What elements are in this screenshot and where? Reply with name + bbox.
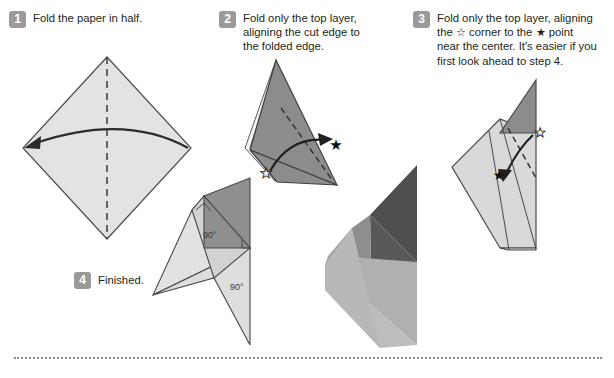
step-4-angle-label-lower: 90° [230, 282, 244, 292]
step-3-paper-tail [500, 248, 536, 250]
step-3-header: 3 Fold only the top layer, aligning the … [413, 11, 613, 68]
step-1-text: Fold the paper in half. [33, 11, 142, 25]
step-1-arrowhead [24, 136, 41, 149]
step-3-crease-a [500, 119, 536, 249]
step-3-flap [500, 80, 536, 133]
step-2-fold-arrow [270, 140, 326, 171]
step-4-badge: 4 [74, 272, 91, 289]
photo-light-left [325, 228, 352, 265]
photo-dark-upper [370, 165, 417, 262]
step-3-crease-b [489, 131, 509, 250]
step-4-flap-lower [204, 196, 250, 248]
step-1-badge: 1 [9, 11, 26, 28]
step-3-fold-arrow [506, 135, 533, 174]
step-4-angle-label-upper: 90° [203, 230, 217, 240]
step-3-paper [452, 119, 536, 248]
photo-mid [337, 215, 371, 262]
step-4-paper-bottom [153, 248, 250, 345]
step-2-fold-line [281, 108, 333, 181]
step-2-diagram: ★ ★ [245, 60, 343, 185]
step-2-paper [250, 60, 337, 185]
photo-dark-lower [370, 215, 417, 262]
step-3-hollow-star: ★ [534, 125, 546, 140]
photo-wing [325, 228, 380, 348]
step-1-diagram [23, 57, 191, 239]
step-3-fold-line [508, 128, 536, 178]
step-2-arrowhead [318, 133, 333, 146]
dotted-rule [14, 357, 602, 361]
photo-lighter-body [325, 265, 417, 348]
step-2-hollow-star: ★ [260, 165, 273, 181]
step-2-badge: 2 [219, 11, 236, 28]
step-3-diagram: ★ ★ [452, 80, 546, 250]
step-1-paper [23, 57, 191, 239]
step-3-arrowhead [498, 169, 512, 182]
photo-light-body [325, 256, 417, 345]
step-1-header: 1 Fold the paper in half. [9, 11, 209, 28]
step-4-paper-mid [192, 196, 250, 278]
step-3-badge: 3 [413, 11, 430, 28]
step-4-header: 4 Finished. [74, 272, 194, 289]
step-2-edge-highlight [245, 60, 279, 181]
step-4-diagram: 90° 90° [153, 178, 250, 345]
step-2-text: Fold only the top layer, aligning the cu… [243, 11, 360, 54]
step-4-flap [204, 178, 250, 248]
folded-paper-photo [325, 165, 417, 348]
step-4-angle-mark-upper [196, 203, 211, 211]
step-2-paper-lower [250, 150, 337, 185]
step-4-text: Finished. [98, 272, 144, 289]
step-4-angle-mark-lower [242, 240, 250, 248]
step-2-header: 2 Fold only the top layer, aligning the … [219, 11, 399, 54]
instruction-sheet: 1 Fold the paper in half. 2 Fold only th… [0, 0, 614, 378]
step-3-filled-star: ★ [493, 167, 506, 183]
step-1-fold-arrow [36, 129, 188, 148]
step-3-text: Fold only the top layer, aligning the ☆ … [437, 11, 597, 68]
step-2-filled-star: ★ [329, 136, 342, 154]
